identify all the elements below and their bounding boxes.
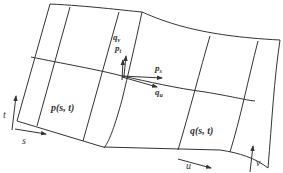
label-p-s: ps — [154, 63, 163, 74]
vector-q-v — [124, 56, 126, 76]
label-p-t: pt — [114, 43, 122, 54]
param-axes — [12, 96, 253, 172]
patch-label-q: q(s, t) — [190, 125, 213, 137]
u-axis-arrow — [178, 159, 211, 168]
t-axis-arrow — [12, 96, 16, 130]
axis-label-s: s — [22, 135, 26, 146]
patch-outline — [17, 4, 280, 168]
surface-diagram: qv pt ps qu p(s, t) q(s, t) t s u v — [0, 0, 283, 173]
axis-label-u: u — [186, 160, 191, 171]
s-axis-arrow — [15, 129, 46, 134]
axis-label-v: v — [256, 157, 261, 168]
label-q-v: qv — [113, 32, 121, 43]
patch-label-p: p(s, t) — [50, 102, 74, 114]
label-q-u: qu — [155, 87, 164, 98]
surface-grid: qv pt ps qu p(s, t) q(s, t) t s u v — [0, 0, 283, 173]
axis-label-t: t — [3, 109, 6, 120]
